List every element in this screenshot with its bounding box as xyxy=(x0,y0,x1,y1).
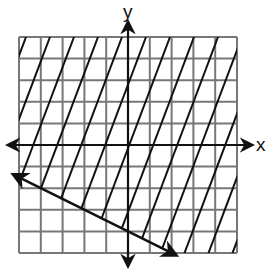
x-axis-label: x xyxy=(256,134,266,155)
hatch-line xyxy=(0,37,2,253)
axes: x y xyxy=(8,1,266,266)
inequality-graph: x y xyxy=(0,0,274,269)
y-axis-label: y xyxy=(123,1,133,22)
